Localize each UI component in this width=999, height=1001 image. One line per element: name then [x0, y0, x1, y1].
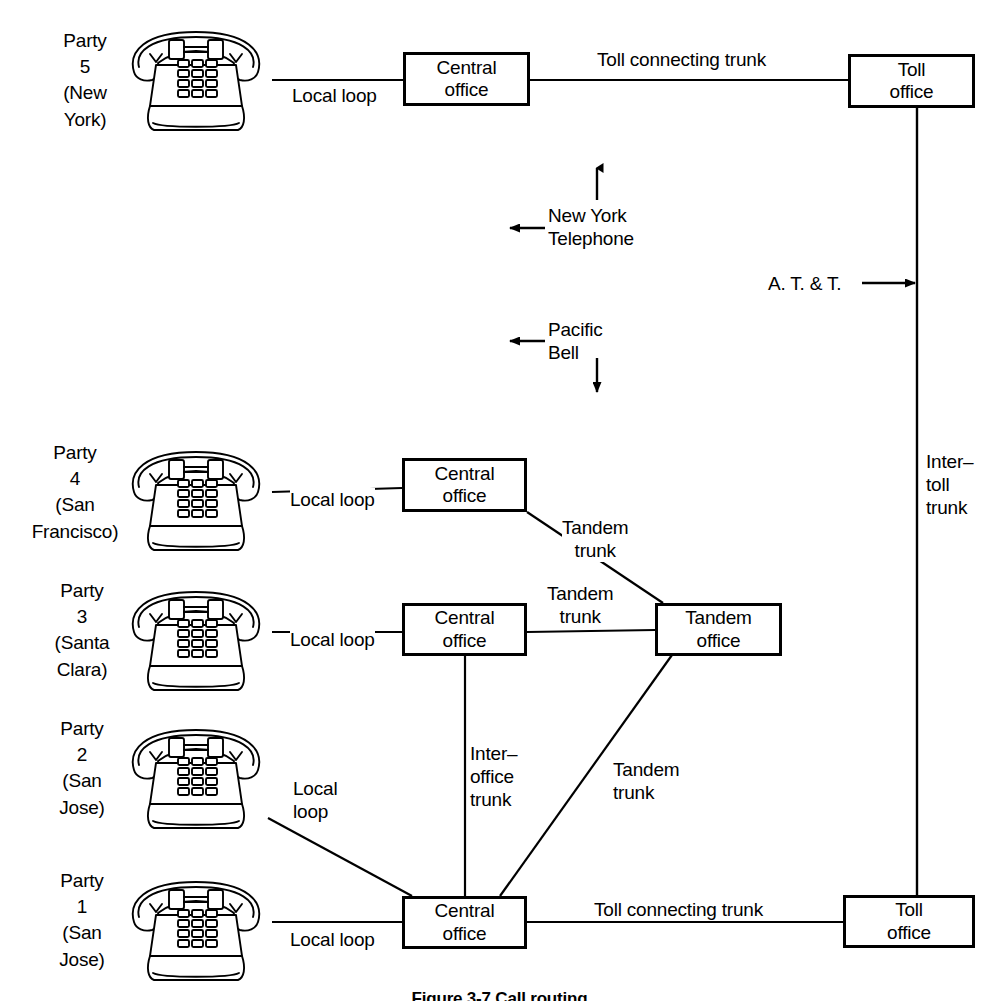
edge-label-tandem-trunk-santa-clara: Tandem trunk	[547, 582, 613, 628]
party-label-party1: Party 1 (San Jose)	[26, 868, 138, 973]
edge-label-local-loop-party2: Local loop	[293, 777, 337, 823]
node-central-office-san-francisco[interactable]: Central office	[402, 458, 527, 512]
node-label-line2: office	[887, 922, 931, 944]
node-toll-office-san-jose[interactable]: Toll office	[843, 895, 975, 948]
node-label-line2: office	[443, 485, 487, 507]
edge-label-tandem-trunk-san-jose: Tandem trunk	[613, 758, 679, 804]
node-tandem-office[interactable]: Tandem office	[655, 603, 782, 656]
node-label-line2: office	[443, 630, 487, 652]
node-label-line1: Tandem	[685, 607, 751, 629]
node-label-line1: Central	[435, 463, 495, 485]
node-label-line2: office	[443, 923, 487, 945]
edge-label-local-loop-party3: Local loop	[290, 628, 375, 651]
line-tandem-trunk-sc	[527, 630, 655, 632]
boundary-label-new-york-telephone: New York Telephone	[548, 204, 634, 250]
node-label-line2: office	[890, 81, 934, 103]
party-label-party5: Party 5 (New York)	[30, 28, 140, 133]
edge-label-tandem-trunk-san-francisco: Tandem trunk	[562, 516, 628, 562]
node-central-office-santa-clara[interactable]: Central office	[402, 603, 527, 656]
edge-label-intertoll-trunk: Inter– toll trunk	[926, 450, 973, 520]
node-central-office-new-york[interactable]: Central office	[403, 52, 530, 106]
party-label-party2: Party 2 (San Jose)	[26, 716, 138, 821]
edge-label-toll-connecting-trunk-bottom: Toll connecting trunk	[594, 898, 763, 921]
edge-label-toll-connecting-trunk-top: Toll connecting trunk	[597, 48, 766, 71]
node-label-line1: Toll	[895, 899, 923, 921]
boundary-label-att: A. T. & T.	[768, 272, 841, 295]
node-label-line1: Central	[435, 607, 495, 629]
node-label-line1: Central	[435, 900, 495, 922]
node-label-line2: office	[445, 79, 489, 101]
node-central-office-san-jose[interactable]: Central office	[402, 896, 527, 949]
node-label-line1: Central	[437, 57, 497, 79]
edge-label-local-loop-party1: Local loop	[290, 928, 375, 951]
line-local-loop-party2	[268, 818, 412, 896]
call-routing-figure: Party 5 (New York) Party 4 (San Francisc…	[0, 0, 999, 1001]
edge-label-interoffice-trunk: Inter– office trunk	[470, 742, 517, 812]
boundary-label-pacific-bell: Pacific Bell	[548, 318, 603, 364]
node-label-line1: Toll	[898, 59, 926, 81]
edge-label-local-loop-party4: Local loop	[290, 488, 375, 511]
node-toll-office-new-york[interactable]: Toll office	[848, 54, 975, 108]
node-label-line2: office	[697, 630, 741, 652]
party-label-party4: Party 4 (San Francisco)	[10, 440, 140, 545]
figure-caption: Figure 3-7 Call routing	[0, 989, 999, 1001]
party-label-party3: Party 3 (Santa Clara)	[22, 578, 142, 683]
edge-label-local-loop-party5: Local loop	[292, 84, 377, 107]
